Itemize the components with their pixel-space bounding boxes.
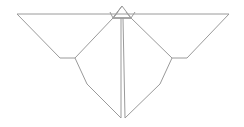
butterfly-strokes xyxy=(17,6,229,118)
center-right-line xyxy=(123,18,125,118)
butterfly-drawing xyxy=(0,0,244,127)
right-body-edge-line xyxy=(125,18,172,118)
butterfly-svg xyxy=(0,0,244,127)
left-wing-outer-line xyxy=(17,14,75,58)
left-body-edge-line xyxy=(75,18,121,118)
head-triangle-outline xyxy=(113,6,131,18)
right-wing-outer-line xyxy=(172,14,229,58)
head-triangle-line xyxy=(113,6,131,18)
